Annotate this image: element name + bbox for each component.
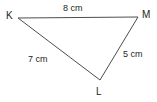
side-length-label-km: 8 cm <box>63 4 83 13</box>
side-length-label-lm: 5 cm <box>123 50 143 59</box>
side-length-label-kl: 7 cm <box>28 55 48 64</box>
vertex-label-k: K <box>6 11 13 21</box>
vertex-label-l: L <box>96 87 102 97</box>
vertex-label-m: M <box>142 10 150 20</box>
geometry-figure: K M L 8 cm 7 cm 5 cm <box>0 0 157 102</box>
triangle-outline <box>18 17 138 80</box>
